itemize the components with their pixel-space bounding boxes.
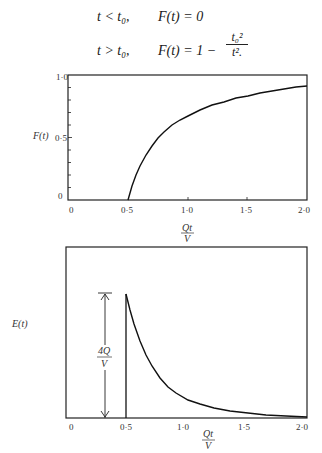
top-xtick-15: 1·5 [240,205,252,215]
top-chart: 1·0 0·5 0 F(t) 0 0·5 1·0 1·5 2·0 Qt V [32,72,310,244]
arrow-label-num: 4Q [98,345,111,356]
top-ytick-05: 0·5 [55,133,67,143]
bottom-xtick-20: 2·0 [296,422,308,432]
top-xlabel-num: Qt [182,222,192,233]
top-ylabel: F(t) [32,130,49,142]
bottom-xlabel-den: V [205,440,213,451]
bottom-xtick-05: 0·5 [120,422,132,432]
bottom-xtick-0: 0 [69,422,74,432]
top-xtick-20: 2·0 [298,205,310,215]
bottom-curve-E [126,294,307,417]
top-chart-frame [68,75,307,200]
top-curve-F [128,86,307,200]
top-xtick-0: 0 [69,205,74,215]
top-xlabel-den: V [184,233,192,244]
top-xtick-05: 0·5 [121,205,133,215]
bottom-ylabel: E(t) [11,318,28,330]
top-ytick-1: 1·0 [56,72,68,82]
bottom-chart-frame [66,247,307,418]
bottom-xlabel-num: Qt [203,428,213,439]
bottom-chart: E(t) 4Q V 0 0·5 1·0 1·5 2·0 Qt V [11,247,308,451]
arrow-label-den: V [101,358,109,369]
top-ytick-0: 0 [58,191,63,201]
bottom-xtick-15: 1·5 [238,422,250,432]
bottom-xtick-10: 1·0 [177,422,189,432]
charts-canvas: 1·0 0·5 0 F(t) 0 0·5 1·0 1·5 2·0 Qt V E(… [0,0,322,453]
top-xtick-10: 1·0 [181,205,193,215]
